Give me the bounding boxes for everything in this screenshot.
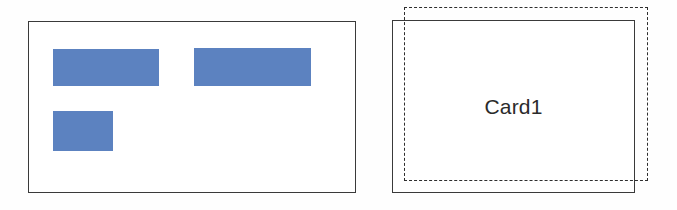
content-container [28,21,356,193]
content-block-3 [53,111,113,151]
content-block-2 [194,48,311,86]
card-label: Card1 [392,20,635,193]
diagram-canvas: Card1 [0,0,677,210]
content-block-1 [53,49,159,86]
card-container: Card1 [380,0,677,210]
